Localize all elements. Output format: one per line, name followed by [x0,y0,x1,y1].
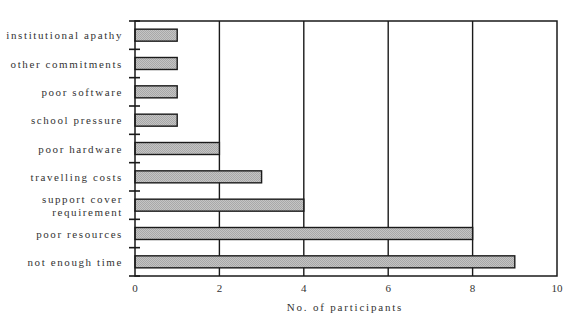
x-tick-label: 0 [132,282,138,294]
x-tick-label: 4 [301,282,307,294]
bar [135,86,177,98]
category-label: not enough time [28,256,124,268]
category-label: poor resources [36,228,123,240]
bar [135,29,177,41]
bar [135,143,219,155]
category-label: poor hardware [38,143,123,155]
category-label: support cover [42,193,123,205]
bar [135,199,304,211]
bar [135,228,473,240]
category-label: poor software [41,86,123,98]
category-label: school pressure [31,114,123,126]
bar [135,58,177,70]
x-tick-label: 6 [385,282,391,294]
x-axis-title: No. of participants [287,301,403,313]
bar [135,256,515,268]
x-tick-label: 2 [217,282,223,294]
bars [135,29,515,268]
bar-chart: institutional apathyother commitmentspoo… [0,0,582,331]
x-tick-label: 8 [470,282,476,294]
bar [135,114,177,126]
category-label: other commitments [11,58,123,70]
x-axis-tick-labels: 0246810 [132,282,563,294]
x-tick-label: 10 [552,282,564,294]
category-labels: institutional apathyother commitmentspoo… [6,29,123,268]
bar [135,171,262,183]
category-label: requirement [52,206,123,218]
category-label: travelling costs [30,171,123,183]
category-label: institutional apathy [6,29,123,41]
